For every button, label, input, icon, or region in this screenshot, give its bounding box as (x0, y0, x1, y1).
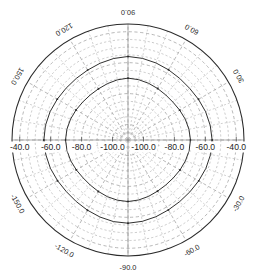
data-point-marker (211, 139, 213, 141)
radial-tick-label: -80.0 (72, 142, 92, 152)
data-point-marker (98, 88, 100, 90)
polar-plot-figure: -40.0-60.0-80.0-100.0-100.0-80.0-60.0-40… (0, 0, 256, 276)
data-point-marker (87, 209, 89, 211)
data-point-marker (75, 169, 77, 171)
radial-tick-label: -80.0 (165, 142, 185, 152)
angular-tick-label: 90.0 (121, 8, 135, 17)
data-point-marker (179, 109, 181, 111)
data-point-marker (127, 77, 129, 79)
angular-tick-label: -90.0 (120, 263, 137, 272)
data-point-marker (43, 139, 45, 141)
data-point-marker (97, 190, 99, 192)
data-point-marker (190, 139, 192, 141)
data-point-marker (127, 222, 129, 224)
data-point-marker (75, 109, 77, 111)
polar-chart-canvas: -40.0-60.0-80.0-100.0-100.0-80.0-60.0-40… (0, 0, 256, 276)
radial-tick-label: -100.0 (131, 142, 156, 152)
data-point-marker (127, 201, 129, 203)
data-point-marker (56, 98, 58, 100)
data-point-marker (157, 190, 159, 192)
data-point-marker (65, 139, 67, 141)
radial-tick-label: -60.0 (41, 142, 61, 152)
data-point-marker (198, 180, 200, 182)
data-point-marker (127, 56, 129, 58)
data-point-marker (198, 98, 200, 100)
data-point-marker (57, 180, 59, 182)
radial-tick-label: -40.0 (227, 142, 247, 152)
data-point-marker (157, 88, 159, 90)
radial-tick-label: -100.0 (100, 142, 125, 152)
data-point-marker (179, 169, 181, 171)
data-point-marker (167, 209, 169, 211)
data-point-marker (87, 69, 89, 71)
radial-tick-label: -60.0 (196, 142, 216, 152)
data-point-marker (168, 69, 170, 71)
radial-tick-label: -40.0 (10, 142, 30, 152)
